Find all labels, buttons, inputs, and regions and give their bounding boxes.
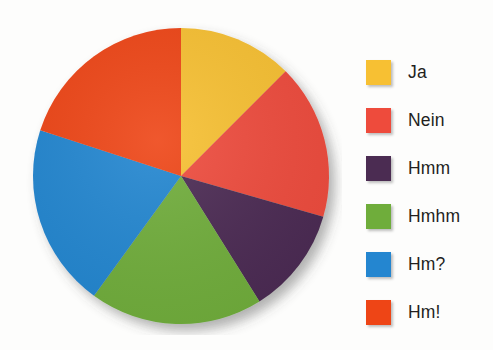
chart-legend: JaNeinHmmHmhmHm?Hm! xyxy=(366,57,491,329)
legend-item-ja[interactable]: Ja xyxy=(366,57,491,87)
legend-item-hm[interactable]: Hm! xyxy=(366,297,491,327)
pie-chart-graphic xyxy=(22,17,342,335)
legend-item-label: Hm? xyxy=(408,255,446,274)
legend-swatch-icon xyxy=(366,156,391,181)
pie-svg xyxy=(22,17,342,335)
legend-swatch-icon xyxy=(366,108,391,133)
legend-item-label: Hmhm xyxy=(408,207,460,226)
pie-slice-group xyxy=(33,28,329,324)
legend-item-hm[interactable]: Hm? xyxy=(366,249,491,279)
legend-item-label: Nein xyxy=(408,111,445,130)
legend-item-label: Hmm xyxy=(408,159,450,178)
legend-item-hmm[interactable]: Hmm xyxy=(366,153,491,183)
legend-swatch-icon xyxy=(366,252,391,277)
pie-chart-figure: JaNeinHmmHmhmHm?Hm! xyxy=(0,0,493,350)
legend-item-hmhm[interactable]: Hmhm xyxy=(366,201,491,231)
legend-swatch-icon xyxy=(366,300,391,325)
legend-item-label: Hm! xyxy=(408,303,441,322)
legend-item-label: Ja xyxy=(408,63,427,82)
legend-item-nein[interactable]: Nein xyxy=(366,105,491,135)
legend-swatch-icon xyxy=(366,204,391,229)
legend-swatch-icon xyxy=(366,60,391,85)
